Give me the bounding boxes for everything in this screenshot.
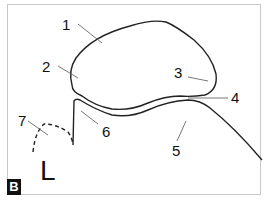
- panel-label-badge: B: [7, 179, 21, 195]
- leader-line-5: [177, 121, 186, 141]
- label-7: 7: [18, 112, 26, 129]
- side-marker-L: L: [40, 155, 56, 186]
- label-6: 6: [102, 123, 110, 140]
- leader-line-6: [81, 111, 98, 124]
- leader-line-7: [28, 121, 48, 135]
- label-3: 3: [174, 64, 182, 81]
- anatomy-diagram: 1 2 3 4 5 6 7 L: [0, 0, 265, 205]
- label-1: 1: [62, 16, 70, 33]
- label-5: 5: [172, 142, 180, 159]
- label-4: 4: [231, 89, 239, 106]
- label-2: 2: [42, 58, 50, 75]
- main-body-outline: [71, 21, 217, 109]
- dashed-structure-7: [33, 124, 73, 152]
- leader-line-1: [78, 24, 102, 43]
